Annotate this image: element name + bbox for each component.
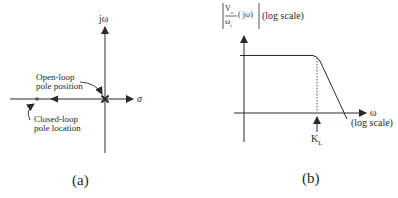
panel-b-bode-plot	[223, 3, 366, 142]
magnitude-response-curve	[240, 56, 347, 120]
sigma-axis-label: σ	[137, 94, 142, 104]
open-loop-pointer-arrow	[80, 82, 102, 94]
caption-a: (a)	[72, 173, 89, 188]
x-axis-scale: (log scale)	[351, 118, 393, 128]
open-loop-label-line2: pole position	[36, 82, 83, 91]
y-label-scale: (log scale)	[262, 11, 304, 21]
y-label-numerator: Vo	[225, 5, 233, 15]
closed-loop-label-line2: pole location	[34, 124, 81, 133]
y-label-argument: ( jω)	[238, 11, 253, 19]
caption-b: (b)	[302, 171, 320, 186]
y-label-o-sub: o	[231, 10, 234, 15]
corner-frequency-label: KL	[311, 134, 323, 147]
closed-loop-pole-marker-icon	[36, 98, 39, 101]
diagram-canvas	[0, 0, 398, 198]
y-label-denominator: ωi	[225, 18, 232, 28]
locus-direction-arrow-icon	[50, 96, 58, 103]
l-sub: L	[318, 139, 322, 147]
y-label-i-sub: i	[230, 23, 231, 28]
jw-axis-label: jω	[99, 14, 108, 24]
